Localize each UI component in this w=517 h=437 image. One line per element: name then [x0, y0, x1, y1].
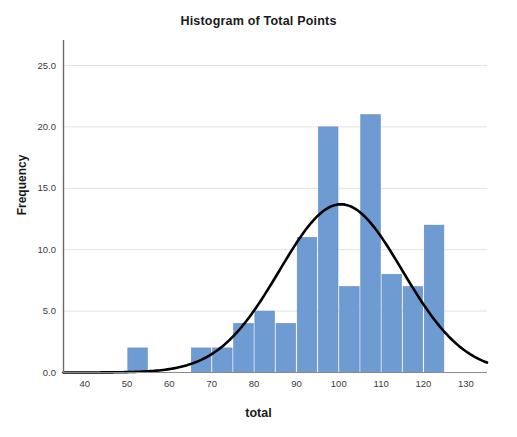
- y-tick-label: 5.0: [22, 305, 56, 316]
- x-tick-label: 50: [112, 378, 142, 389]
- normal-distribution-curve: [64, 204, 488, 372]
- x-tick-label: 100: [324, 378, 354, 389]
- histogram-bar: [276, 323, 296, 372]
- y-tick-label: 20.0: [22, 121, 56, 132]
- histogram-bar: [424, 225, 444, 372]
- histogram-bar: [382, 274, 402, 372]
- x-tick-label: 40: [70, 378, 100, 389]
- x-tick-label: 80: [239, 378, 269, 389]
- histogram-bar: [128, 348, 148, 373]
- gridlines: [64, 66, 488, 312]
- histogram-bars: [128, 115, 444, 373]
- axis-lines: [63, 40, 487, 373]
- histogram-bar: [361, 115, 381, 373]
- x-tick-label: 130: [451, 378, 481, 389]
- y-tick-label: 10.0: [22, 244, 56, 255]
- histogram-chart: Histogram of Total Points Frequency tota…: [0, 0, 517, 437]
- x-tick-label: 120: [408, 378, 438, 389]
- y-tick-label: 15.0: [22, 182, 56, 193]
- histogram-bar: [340, 287, 360, 373]
- normal-curve-overlay: [64, 204, 488, 372]
- x-tick-label: 110: [366, 378, 396, 389]
- y-tick-label: 0.0: [22, 367, 56, 378]
- plot-area: [0, 0, 517, 437]
- histogram-bar: [255, 311, 275, 372]
- x-tick-label: 70: [197, 378, 227, 389]
- histogram-bar: [297, 237, 317, 372]
- histogram-bar: [318, 127, 338, 373]
- y-tick-label: 25.0: [22, 60, 56, 71]
- x-tick-label: 90: [281, 378, 311, 389]
- x-tick-label: 60: [154, 378, 184, 389]
